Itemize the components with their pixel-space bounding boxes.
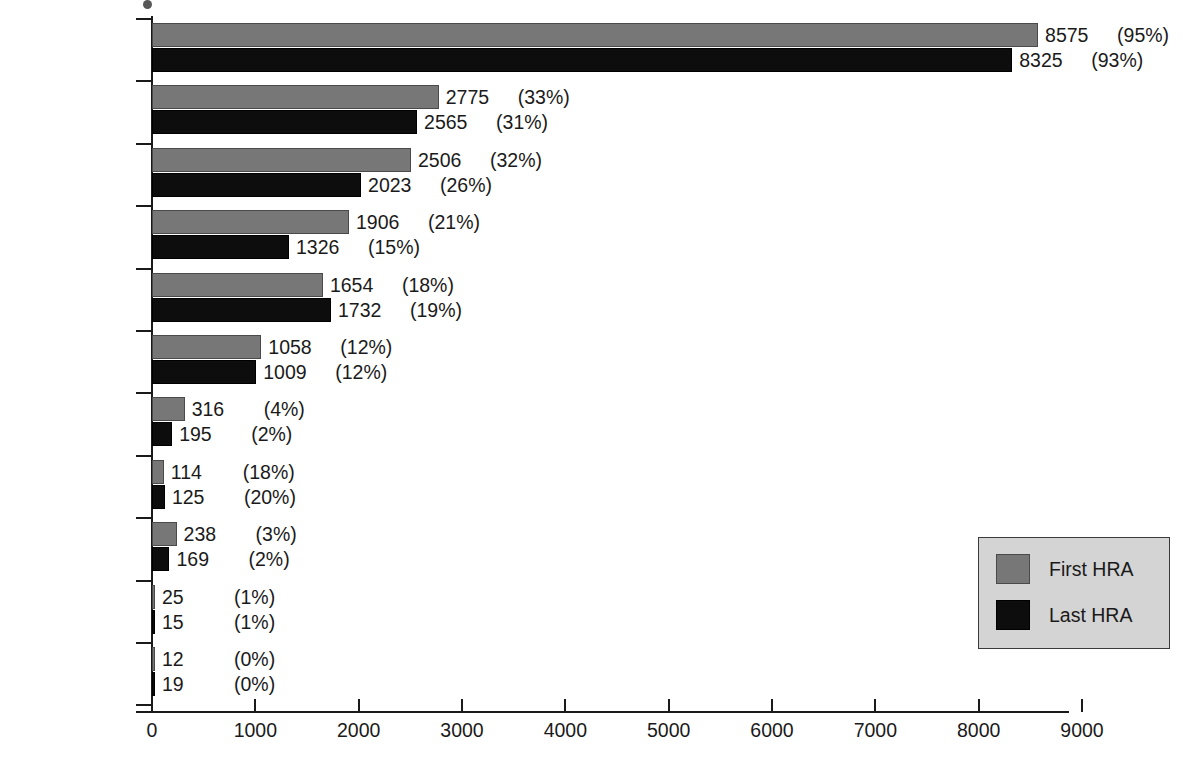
bar-value-label: 1009(12%) <box>263 361 387 384</box>
x-axis-tick-label: 6000 <box>750 719 793 742</box>
legend-swatch-first-hra <box>996 554 1030 584</box>
chart-legend: First HRA Last HRA <box>978 537 1170 649</box>
bar-group: 1732(19%) <box>152 298 331 322</box>
bar-percent: (33%) <box>518 86 570 109</box>
chart-category-row: Salt*238(3%)169(2%) <box>0 519 1040 581</box>
bar-last-hra <box>152 672 155 696</box>
bar-value: 2506 <box>418 148 474 171</box>
y-axis-tick <box>136 80 151 82</box>
bar-percent: (1%) <box>234 585 275 608</box>
legend-item-last-hra: Last HRA <box>996 598 1132 632</box>
bar-percent: (12%) <box>335 361 387 384</box>
x-axis-line <box>136 711 1069 713</box>
bar-value: 2565 <box>424 111 480 134</box>
x-axis-tick-label: 2000 <box>337 719 380 742</box>
bar-group: 8575(95%) <box>152 23 1038 47</box>
bar-group: 19(0%) <box>152 672 155 696</box>
bar-value: 316 <box>192 398 248 421</box>
x-axis-tick-label: 1000 <box>234 719 277 742</box>
bar-last-hra <box>152 360 256 384</box>
bar-percent: (3%) <box>256 523 297 546</box>
bar-percent: (32%) <box>490 148 542 171</box>
bar-group: 1058(12%) <box>152 335 261 359</box>
x-axis-tick-label: 8000 <box>957 719 1000 742</box>
legend-item-first-hra: First HRA <box>996 552 1134 586</box>
bar-value: 15 <box>162 610 218 633</box>
x-axis-tick-label: 4000 <box>544 719 587 742</box>
bar-percent: (18%) <box>243 460 295 483</box>
bar-group: 8325(93%) <box>152 48 1012 72</box>
bar-value: 238 <box>184 523 240 546</box>
bar-percent: (4%) <box>264 398 305 421</box>
bar-group: 114(18%) <box>152 460 164 484</box>
bar-group: 2506(32%) <box>152 148 411 172</box>
legend-label-first-hra: First HRA <box>1049 558 1134 581</box>
bar-value-label: 2023(26%) <box>368 173 492 196</box>
bar-value: 1326 <box>296 236 352 259</box>
bar-percent: (0%) <box>234 648 275 671</box>
y-axis-tick <box>136 642 151 644</box>
chart-category-row: Fat*316(4%)195(2%) <box>0 394 1040 456</box>
bar-group: 2775(33%) <box>152 85 439 109</box>
bar-last-hra <box>152 298 331 322</box>
bar-group: 1906(21%) <box>152 210 349 234</box>
y-axis-tick <box>136 268 151 270</box>
y-axis-tick <box>136 18 151 20</box>
y-axis-tick <box>136 517 151 519</box>
bar-value-label: 1326(15%) <box>296 236 420 259</box>
chart-category-row: BMI*1654(18%)1732(19%) <box>0 270 1040 332</box>
bar-value-label: 114(18%) <box>171 460 295 483</box>
bar-value-label: 2565(31%) <box>424 111 548 134</box>
y-axis-tick <box>136 704 151 706</box>
bar-first-hra <box>152 23 1038 47</box>
bar-value: 8575 <box>1045 24 1101 47</box>
bar-value-label: 125(20%) <box>172 485 296 508</box>
bar-percent: (26%) <box>440 173 492 196</box>
bar-first-hra <box>152 210 349 234</box>
bar-last-hra <box>152 110 417 134</box>
bar-group: 169(2%) <box>152 547 169 571</box>
bar-first-hra <box>152 85 439 109</box>
x-axis-tick <box>254 699 256 712</box>
y-axis-tick <box>136 455 151 457</box>
bar-first-hra <box>152 148 411 172</box>
bar-percent: (31%) <box>496 111 548 134</box>
bar-group: 2565(31%) <box>152 110 417 134</box>
bar-value-label: 8575(95%) <box>1045 24 1169 47</box>
x-axis-tick-label: 7000 <box>854 719 897 742</box>
bar-group: 238(3%) <box>152 522 177 546</box>
chart-category-row: Fiber*8575(95%)8325(93%) <box>0 20 1040 82</box>
x-axis-tick <box>151 699 153 712</box>
bar-value-label: 169(2%) <box>176 548 289 571</box>
x-axis-tick <box>668 699 670 712</box>
bar-value-label: 195(2%) <box>179 423 292 446</box>
bar-group: 1326(15%) <box>152 235 289 259</box>
bar-group: 2023(26%) <box>152 173 361 197</box>
bar-percent: (19%) <box>410 298 462 321</box>
bar-value: 2023 <box>368 173 424 196</box>
bar-value: 1009 <box>263 361 319 384</box>
bar-first-hra <box>152 273 323 297</box>
bar-last-hra <box>152 547 169 571</box>
chart-category-row: Alcohol12(0%)19(0%) <box>0 644 1040 706</box>
y-axis-tick <box>136 580 151 582</box>
legend-label-last-hra: Last HRA <box>1049 604 1132 627</box>
bar-first-hra <box>152 460 164 484</box>
x-axis-tick <box>461 699 463 712</box>
bar-first-hra <box>152 335 261 359</box>
chart-category-row: Cigarettes*1058(12%)1009(12%) <box>0 332 1040 394</box>
bar-value: 2775 <box>446 86 502 109</box>
x-axis-tick <box>978 699 980 712</box>
y-axis-tick <box>136 392 151 394</box>
bar-last-hra <box>152 485 165 509</box>
bar-value-label: 1732(19%) <box>338 298 462 321</box>
bar-value-label: 1058(12%) <box>268 336 392 359</box>
bar-value-label: 15(1%) <box>162 610 275 633</box>
chart-category-row: Cholesterol114(18%)125(20%) <box>0 457 1040 519</box>
bar-percent: (2%) <box>251 423 292 446</box>
bar-group: 316(4%) <box>152 397 185 421</box>
page-artifact-mark <box>143 0 152 9</box>
bar-value-label: 1654(18%) <box>330 273 454 296</box>
bar-value: 169 <box>176 548 232 571</box>
bar-last-hra <box>152 610 155 634</box>
